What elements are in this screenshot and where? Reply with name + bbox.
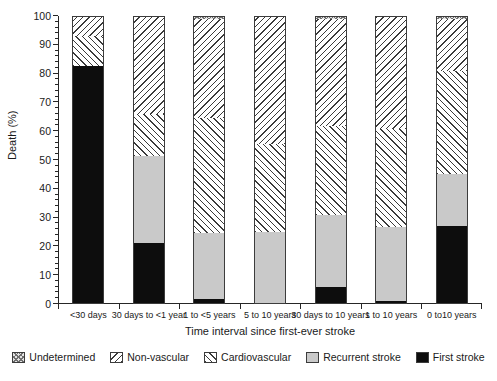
legend-swatch-undet-icon [12,352,25,363]
y-tick-label: 100 [33,11,51,22]
x-tick [119,304,120,309]
legend-swatch-recurrent-icon [306,352,319,363]
stacked-bar[interactable] [375,16,407,304]
bar-segment-first[interactable] [193,299,225,304]
bar-segment-cardio[interactable] [72,36,104,66]
y-tick-label: 60 [39,126,51,137]
bar-segment-first[interactable] [315,287,347,304]
bar-segment-nonvasc[interactable] [315,19,347,126]
bar-segment-nonvasc[interactable] [254,16,286,144]
stacked-bar[interactable] [193,16,225,304]
bar-segment-recurrent[interactable] [436,174,468,226]
bar-segment-recurrent[interactable] [193,233,225,299]
x-tick [300,304,301,309]
stacked-bar[interactable] [315,16,347,304]
bar-segment-nonvasc[interactable] [375,16,407,129]
y-tick-label: 10 [39,270,51,281]
bar-segment-cardio[interactable] [375,129,407,227]
bar-segment-recurrent[interactable] [315,215,347,286]
legend-label: Cardiovascular [221,352,291,363]
y-tick-label: 40 [39,184,51,195]
x-axis-title: Time interval since first-ever stroke [58,325,482,337]
bar-group[interactable]: 0 to10 years [421,16,482,304]
x-tick-label: 1 to <5 years [183,311,235,320]
bar-segment-undet[interactable] [193,16,225,19]
bar-segment-undet[interactable] [315,16,347,19]
chart-legend: UndeterminedNon-vascularCardiovascularRe… [0,352,497,363]
legend-item-first[interactable]: First stroke [416,352,485,363]
x-tick-label: 30 days to <1 year [112,311,186,320]
bar-group[interactable]: 30 days to 10 years [300,16,361,304]
bar-group[interactable]: <30 days [58,16,119,304]
y-tick-label: 70 [39,97,51,108]
bar-segment-cardio[interactable] [315,126,347,215]
bar-segment-first[interactable] [375,301,407,304]
bar-group[interactable]: 1 to <5 years [179,16,240,304]
stacked-bar[interactable] [133,16,165,304]
legend-swatch-nonvasc-icon [110,352,123,363]
legend-item-cardio[interactable]: Cardiovascular [204,352,291,363]
bar-segment-nonvasc[interactable] [133,16,165,114]
legend-item-undet[interactable]: Undetermined [12,352,95,363]
bar-segment-recurrent[interactable] [254,232,286,304]
bar-segment-cardio[interactable] [133,114,165,156]
x-tick-label: 5 to 10 years [244,311,296,320]
y-tick-label: 80 [39,68,51,79]
bar-segment-cardio[interactable] [436,71,468,175]
y-axis-title: Death (%) [6,110,18,160]
x-tick-label: 30 days to 10 years [291,311,370,320]
legend-label: First stroke [433,352,485,363]
bar-group[interactable]: 1 to 10 years [361,16,422,304]
legend-label: Non-vascular [127,352,189,363]
legend-label: Undetermined [29,352,95,363]
bar-group[interactable]: 5 to 10 years [240,16,301,304]
legend-swatch-cardio-icon [204,352,217,363]
bar-segment-first[interactable] [436,226,468,304]
bar-segment-cardio[interactable] [254,144,286,232]
bar-segment-first[interactable] [72,66,104,304]
legend-label: Recurrent stroke [323,352,401,363]
bar-group[interactable]: 30 days to <1 year [119,16,180,304]
stacked-bar[interactable] [436,16,468,304]
bar-segment-undet[interactable] [436,16,468,19]
legend-item-nonvasc[interactable]: Non-vascular [110,352,189,363]
x-tick [240,304,241,309]
x-tick-label: 1 to 10 years [365,311,417,320]
y-tick-label: 0 [45,299,51,310]
x-tick-label: <30 days [70,311,107,320]
x-tick [481,304,482,309]
legend-swatch-first-icon [416,352,429,363]
y-tick-label: 90 [39,40,51,51]
bar-segment-nonvasc[interactable] [193,19,225,118]
x-tick-label: 0 to10 years [427,311,477,320]
y-tick-label: 30 [39,212,51,223]
x-tick [58,304,59,309]
bar-segment-nonvasc[interactable] [436,19,468,71]
stacked-bar[interactable] [254,16,286,304]
bar-segment-recurrent[interactable] [133,156,165,243]
bar-segment-cardio[interactable] [193,118,225,233]
legend-item-recurrent[interactable]: Recurrent stroke [306,352,401,363]
plot-area: 0102030405060708090100 <30 days30 days t… [58,16,482,304]
x-tick [361,304,362,309]
x-tick [179,304,180,309]
y-tick-label: 50 [39,155,51,166]
y-tick-label: 20 [39,241,51,252]
bar-segment-recurrent[interactable] [375,227,407,300]
stacked-bar-chart-figure: Death (%) 0102030405060708090100 <30 day… [0,0,497,381]
bar-segment-nonvasc[interactable] [72,16,104,36]
stacked-bar[interactable] [72,16,104,304]
x-tick [421,304,422,309]
bar-segment-first[interactable] [133,243,165,304]
